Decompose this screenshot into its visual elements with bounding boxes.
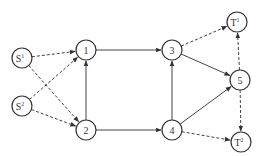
node-label: 3 [170,45,175,56]
edge-S1-to-n2 [29,65,79,121]
node-n4: 4 [162,120,182,140]
node-n2: 2 [76,120,96,140]
node-n5: 5 [230,70,250,90]
node-n1: 1 [76,40,96,60]
node-label: 4 [170,125,175,136]
node-label: 2 [84,125,89,136]
node-n3: 3 [162,40,182,60]
nodes-layer: S1S212345T1T2 [12,12,251,152]
node-label: 5 [238,75,243,86]
edge-n3-to-n5 [181,54,230,76]
edges-layer [29,26,241,140]
node-label: 1 [84,45,89,56]
edge-n3-to-T1 [181,26,227,46]
node-S2: S2 [12,96,32,116]
network-diagram: S1S212345T1T2 [0,0,267,156]
edge-S1-to-n1 [32,51,75,56]
edge-n5-to-T1 [238,33,240,70]
edge-n5-to-T2 [240,90,241,131]
node-S1: S1 [12,48,32,68]
edge-n4-to-T2 [182,132,230,140]
edge-n4-to-n5 [180,87,231,125]
node-T1: T1 [227,12,247,32]
edge-S2-to-n2 [31,110,75,127]
node-T2: T2 [231,132,251,152]
